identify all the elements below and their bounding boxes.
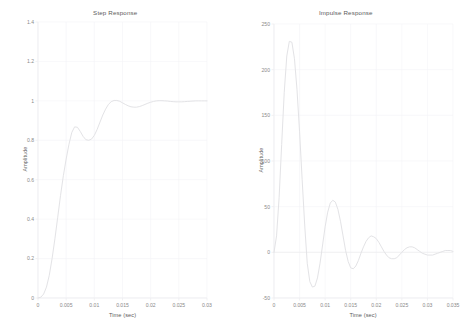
panel-step-response: Step Response 00.20.40.60.811.21.400.005… (0, 0, 231, 333)
svg-text:0.4: 0.4 (27, 216, 34, 222)
svg-text:1.4: 1.4 (27, 19, 34, 25)
svg-text:1.2: 1.2 (27, 58, 34, 64)
figure-container: Step Response 00.20.40.60.811.21.400.005… (0, 0, 461, 333)
svg-text:0.03: 0.03 (422, 302, 432, 308)
svg-text:0.035: 0.035 (446, 302, 459, 308)
step-response-plot: 00.20.40.60.811.21.400.0050.010.0150.020… (0, 0, 230, 333)
panel-impulse-response: Impulse Response -5005010015020025000.00… (231, 0, 461, 333)
svg-text:0: 0 (267, 249, 270, 255)
step-response-xlabel: Time (sec) (38, 312, 207, 318)
svg-text:0.015: 0.015 (116, 302, 129, 308)
svg-text:0.01: 0.01 (320, 302, 330, 308)
impulse-response-ylabel: Amplitude (258, 143, 264, 177)
svg-text:0: 0 (31, 295, 34, 301)
svg-text:0.005: 0.005 (293, 302, 306, 308)
svg-text:0.01: 0.01 (89, 302, 99, 308)
svg-text:250: 250 (261, 21, 270, 27)
svg-text:0.015: 0.015 (344, 302, 357, 308)
step-response-ylabel: Amplitude (22, 142, 28, 176)
svg-text:0.005: 0.005 (60, 302, 73, 308)
impulse-response-plot: -5005010015020025000.0050.010.0150.020.0… (231, 0, 461, 333)
svg-text:0.02: 0.02 (146, 302, 156, 308)
svg-text:0.025: 0.025 (172, 302, 185, 308)
svg-text:0.02: 0.02 (371, 302, 381, 308)
svg-text:150: 150 (261, 112, 270, 118)
svg-text:0.2: 0.2 (27, 255, 34, 261)
svg-text:-50: -50 (262, 295, 270, 301)
svg-text:0: 0 (37, 302, 40, 308)
svg-text:1: 1 (31, 98, 34, 104)
svg-text:0.03: 0.03 (202, 302, 212, 308)
svg-text:0: 0 (272, 302, 275, 308)
svg-text:0.025: 0.025 (395, 302, 408, 308)
impulse-response-xlabel: Time (sec) (274, 312, 453, 318)
svg-text:50: 50 (264, 204, 270, 210)
svg-text:0.6: 0.6 (27, 177, 34, 183)
svg-text:200: 200 (261, 67, 270, 73)
